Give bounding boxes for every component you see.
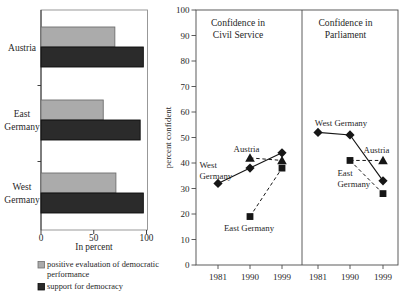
y-tick-label: 60 bbox=[181, 107, 191, 117]
x-tick-label: 1999 bbox=[273, 272, 292, 282]
marker-diamond-west-germany bbox=[245, 164, 254, 173]
panel-confidence-in-civil-service: 198119901999WestGermanyAustriaEast Germa… bbox=[200, 144, 292, 282]
marker-diamond-west-germany bbox=[345, 130, 354, 139]
line-yaxis-title: percent confident bbox=[163, 106, 173, 168]
legend-swatch-positive-evaluation-of-democratic-performance bbox=[38, 262, 45, 269]
bar-x-tick-label: 50 bbox=[89, 233, 99, 243]
series-label-east-germany: East bbox=[338, 168, 354, 178]
y-tick-label: 30 bbox=[181, 184, 191, 194]
bar-category-label-austria: Austria bbox=[8, 43, 37, 53]
y-tick-label: 40 bbox=[181, 158, 191, 168]
x-tick-label: 1990 bbox=[341, 272, 360, 282]
x-tick-label: 1981 bbox=[309, 272, 327, 282]
series-austria: Austria bbox=[350, 145, 390, 164]
y-tick-label: 20 bbox=[181, 209, 191, 219]
marker-triangle-austria bbox=[277, 156, 287, 164]
marker-square-east-germany bbox=[247, 213, 254, 220]
marker-diamond-west-germany bbox=[313, 128, 322, 137]
x-tick-label: 1990 bbox=[241, 272, 260, 282]
line-chart: 0102030405060708090100198119901999WestGe… bbox=[176, 5, 398, 282]
legend-label-support-for-democracy: support for democracy bbox=[47, 282, 124, 291]
y-tick-label: 70 bbox=[181, 82, 191, 92]
marker-triangle-austria bbox=[245, 153, 255, 161]
marker-square-east-germany bbox=[279, 165, 286, 172]
series-label-east-germany: East Germany bbox=[224, 223, 275, 233]
panel-title-parliament-line1: Confidence in bbox=[318, 17, 372, 28]
bar-austria-positive-evaluation-of-democratic-performance bbox=[41, 27, 115, 47]
y-tick-label: 80 bbox=[181, 56, 191, 66]
y-tick-label: 10 bbox=[181, 235, 191, 245]
series-label-austria: Austria bbox=[234, 144, 260, 154]
bar-category-label-west-germany: West bbox=[13, 182, 32, 192]
bar-category-label-east-germany: East bbox=[14, 109, 31, 119]
bar-east-germany-positive-evaluation-of-democratic-performance bbox=[41, 100, 103, 120]
panel-title-parliament-line2: Parliament bbox=[325, 29, 367, 40]
bar-west-germany-positive-evaluation-of-democratic-performance bbox=[41, 173, 116, 193]
marker-square-east-germany bbox=[380, 190, 387, 197]
y-tick-label: 100 bbox=[176, 5, 190, 15]
marker-triangle-austria bbox=[378, 156, 388, 164]
series-line-east-germany bbox=[350, 160, 383, 193]
legend-item-positive-evaluation-of-democratic-performance: positive evaluation of democraticperform… bbox=[38, 260, 159, 279]
legend-swatch-support-for-democracy bbox=[38, 284, 45, 291]
series-label-austria: Austria bbox=[364, 145, 390, 155]
legend-item-support-for-democracy: support for democracy bbox=[38, 282, 124, 291]
bar-west-germany-support-for-democracy bbox=[41, 193, 143, 213]
series-line-east-germany bbox=[250, 168, 282, 216]
series-label-west-germany: West Germany bbox=[315, 118, 368, 128]
bar-category-label-east-germany: Germany bbox=[4, 122, 40, 132]
panel-title-civil-service-line1: Confidence in bbox=[211, 17, 265, 28]
legend-label-positive-evaluation-of-democratic-performance: performance bbox=[47, 270, 90, 279]
panel-confidence-in-parliament: 198119901999West GermanyAustriaEastGerma… bbox=[309, 118, 393, 282]
y-tick-label: 0 bbox=[185, 260, 190, 270]
bar-xaxis-title: In percent bbox=[75, 242, 113, 252]
panel-title-civil-service-line2: Civil Service bbox=[213, 29, 263, 40]
series-west-germany: WestGermany bbox=[200, 148, 287, 188]
figure: In percent percent confident Confidence … bbox=[0, 0, 404, 294]
series-label-east-germany: Germany bbox=[338, 179, 371, 189]
marker-square-east-germany bbox=[347, 157, 354, 164]
bar-east-germany-support-for-democracy bbox=[41, 120, 140, 140]
marker-diamond-west-germany bbox=[378, 176, 387, 185]
bar-chart: AustriaEastGermanyWestGermany050100 bbox=[4, 10, 154, 243]
series-east-germany: East Germany bbox=[224, 165, 285, 233]
y-tick-label: 50 bbox=[181, 133, 191, 143]
series-label-west-germany: Germany bbox=[200, 171, 233, 181]
figure-container: In percent percent confident Confidence … bbox=[0, 0, 404, 294]
x-tick-label: 1981 bbox=[209, 272, 227, 282]
bar-category-label-west-germany: Germany bbox=[4, 195, 40, 205]
bar-x-tick-label: 100 bbox=[140, 233, 154, 243]
bar-austria-support-for-democracy bbox=[41, 47, 143, 67]
bar-x-tick-label: 0 bbox=[39, 233, 44, 243]
y-tick-label: 90 bbox=[181, 31, 191, 41]
x-tick-label: 1999 bbox=[374, 272, 393, 282]
series-label-west-germany: West bbox=[200, 160, 218, 170]
legend-label-positive-evaluation-of-democratic-performance: positive evaluation of democratic bbox=[47, 260, 159, 269]
bar-legend: positive evaluation of democraticperform… bbox=[38, 260, 159, 291]
